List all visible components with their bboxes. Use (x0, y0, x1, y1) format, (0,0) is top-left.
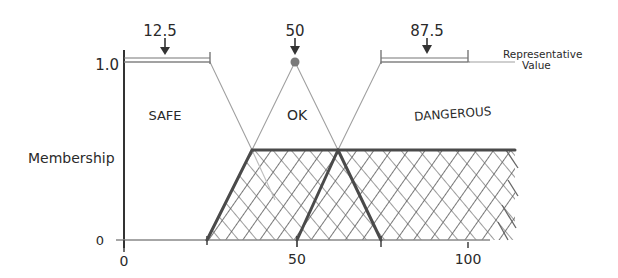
ok-representative-value: 50 (285, 22, 304, 40)
ok-peak-dot (291, 58, 300, 67)
ok-set-label: OK (287, 107, 308, 123)
safe-function (124, 62, 252, 150)
hatched-output-region (200, 145, 530, 245)
y-axis-label: Membership (28, 150, 115, 166)
x-tick-label-0: 0 (120, 253, 129, 269)
y-tick-0: 0 (96, 233, 104, 248)
dangerous-set-label: DANGEROUS (414, 104, 492, 123)
ok-function (252, 62, 338, 150)
value-arrows (160, 38, 432, 55)
dangerous-representative-value: 87.5 (410, 22, 443, 40)
x-tick-label-100: 100 (455, 251, 482, 267)
safe-value-bar (124, 52, 210, 64)
x-tick-label-50: 50 (288, 251, 306, 267)
fuzzy-membership-diagram: 12.5 50 87.5 1.0 0 Membership 0 50 100 S… (0, 0, 618, 278)
safe-set-label: SAFE (148, 108, 181, 123)
ok-arrow-icon (290, 38, 300, 55)
annotation-line2: Value (522, 59, 551, 71)
dangerous-function (338, 62, 470, 150)
dangerous-arrow-icon (422, 38, 432, 54)
safe-representative-value: 12.5 (143, 22, 176, 40)
y-tick-1: 1.0 (95, 56, 119, 74)
safe-arrow-icon (160, 38, 170, 55)
dangerous-value-bar (381, 50, 468, 64)
